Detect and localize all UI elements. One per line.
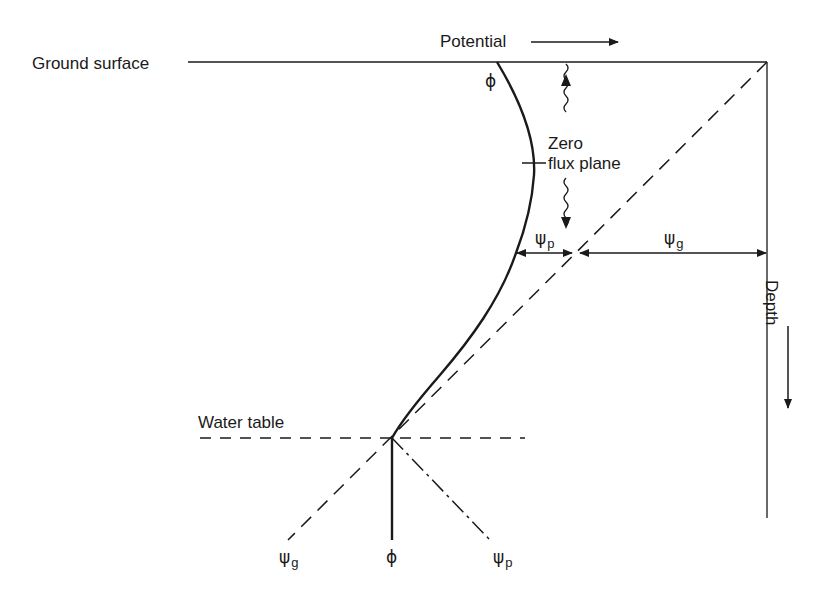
psi-g-arrow-label: ψg bbox=[664, 230, 683, 247]
legend-psi-p-label: ψp bbox=[493, 549, 512, 566]
phi-curve bbox=[392, 62, 534, 438]
diagram-canvas bbox=[0, 0, 829, 595]
psi-subscript: g bbox=[291, 555, 298, 570]
psi-g-dashed-line bbox=[288, 62, 767, 540]
psi-symbol: ψ bbox=[279, 547, 290, 567]
ground-surface-label: Ground surface bbox=[32, 55, 149, 72]
psi-subscript: g bbox=[676, 236, 683, 251]
water-table-label: Water table bbox=[198, 414, 284, 431]
psi-symbol: ψ bbox=[493, 547, 504, 567]
psi-p-dashdot-line bbox=[392, 438, 490, 540]
depth-axis-label: Depth bbox=[761, 280, 781, 325]
psi-p-arrow-label: ψp bbox=[535, 230, 554, 247]
psi-symbol: ψ bbox=[535, 228, 546, 248]
potential-axis-label: Potential bbox=[440, 33, 506, 50]
zero-flux-label-line2: flux plane bbox=[548, 155, 621, 172]
phi-top-label: ϕ bbox=[485, 73, 496, 90]
psi-subscript: p bbox=[547, 236, 554, 251]
wavy-down-arrowhead bbox=[561, 217, 571, 229]
psi-subscript: p bbox=[505, 555, 512, 570]
wavy-up-arrowhead bbox=[561, 74, 571, 86]
wavy-up-arrow bbox=[564, 64, 568, 112]
zero-flux-label-line1: Zero bbox=[548, 135, 583, 152]
psi-symbol: ψ bbox=[664, 228, 675, 248]
legend-phi-label: ϕ bbox=[386, 549, 397, 566]
legend-psi-g-label: ψg bbox=[279, 549, 298, 566]
